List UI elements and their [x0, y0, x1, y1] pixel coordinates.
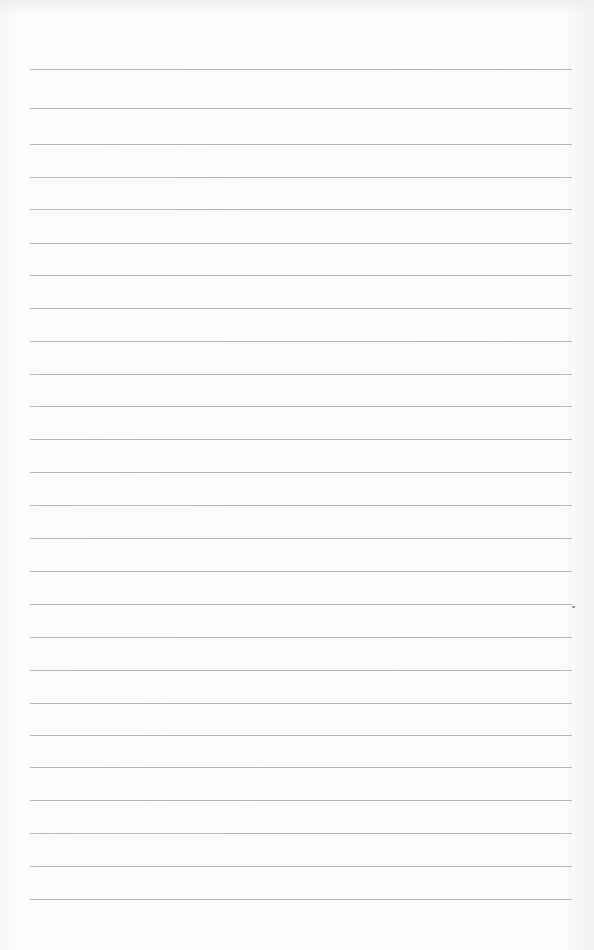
ruled-line — [30, 144, 572, 145]
ruled-line — [30, 209, 572, 210]
ruled-line — [30, 243, 572, 244]
ruled-line — [30, 439, 572, 440]
ruled-line — [30, 108, 572, 109]
ruled-line — [30, 866, 572, 867]
ruled-line — [30, 670, 572, 671]
ruled-line — [30, 177, 572, 178]
ruled-line — [30, 637, 572, 638]
ruled-line — [30, 472, 572, 473]
ruled-line — [30, 538, 572, 539]
scan-edge-shadow — [0, 0, 594, 14]
ruled-line — [30, 735, 572, 736]
ruled-line — [30, 604, 572, 605]
ruled-line — [30, 69, 572, 70]
ruled-line — [30, 833, 572, 834]
lined-paper-page — [0, 0, 594, 950]
ruled-line — [30, 406, 572, 407]
ruled-line — [30, 505, 572, 506]
ruled-line — [30, 703, 572, 704]
ruled-line — [30, 767, 572, 768]
ruled-line — [30, 899, 572, 900]
scan-speck — [572, 606, 575, 608]
ruled-line — [30, 800, 572, 801]
ruled-line — [30, 374, 572, 375]
ruled-line — [30, 571, 572, 572]
ruled-line — [30, 275, 572, 276]
ruled-line — [30, 308, 572, 309]
ruled-line — [30, 341, 572, 342]
